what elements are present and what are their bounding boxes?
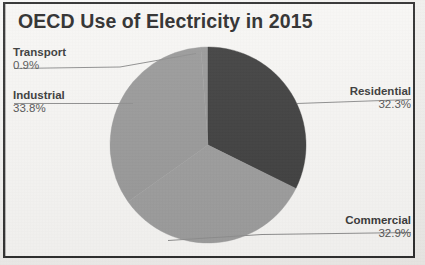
pie-label-industrial-name: Industrial [13,89,65,102]
pie-label-residential-value: 32.3% [350,98,411,111]
pie-slices [110,47,306,243]
chart-image: OECD Use of Electricity in 2015 Transpor… [0,0,425,265]
pie-label-commercial-name: Commercial [345,214,411,227]
pie-label-transport: Transport 0.9% [13,46,66,72]
pie-label-commercial: Commercial 32.9% [345,214,411,240]
pie-label-residential-name: Residential [350,85,411,98]
pie-label-transport-name: Transport [13,46,66,59]
pie-label-transport-value: 0.9% [13,59,66,72]
pie-label-residential: Residential 32.3% [350,85,411,111]
pie-label-industrial-value: 33.8% [13,102,65,115]
pie-label-commercial-value: 32.9% [345,227,411,240]
pie-label-industrial: Industrial 33.8% [13,89,65,115]
